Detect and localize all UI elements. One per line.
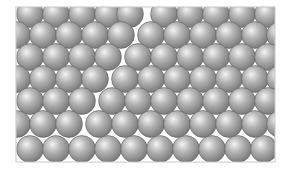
sphere-packing-diagram	[0, 0, 289, 171]
right-grain-sphere	[99, 88, 126, 115]
right-grain-sphere	[199, 136, 226, 163]
right-grain-sphere	[177, 88, 204, 115]
right-grain-sphere	[190, 111, 217, 138]
right-grain-sphere	[255, 88, 282, 115]
right-grain-sphere	[95, 136, 122, 163]
left-grain-sphere	[69, 136, 96, 163]
left-grain-sphere	[4, 111, 31, 138]
left-grain-sphere	[17, 88, 44, 115]
left-grain-sphere	[30, 111, 57, 138]
right-grain-sphere	[151, 88, 178, 115]
right-grain-sphere	[147, 136, 174, 163]
left-grain-sphere	[56, 111, 83, 138]
right-grain-sphere	[86, 111, 113, 138]
right-grain-sphere	[242, 111, 269, 138]
left-grain-sphere	[43, 136, 70, 163]
right-grain-sphere	[216, 111, 243, 138]
right-grain-sphere	[125, 88, 152, 115]
right-grain-sphere	[121, 136, 148, 163]
right-grain-sphere	[164, 111, 191, 138]
right-grain-sphere	[225, 136, 252, 163]
left-grain-sphere	[43, 88, 70, 115]
right-grain-sphere	[173, 136, 200, 163]
left-grain-sphere	[69, 88, 96, 115]
right-grain-sphere	[251, 136, 278, 163]
right-grain-sphere	[112, 111, 139, 138]
diagram-canvas	[0, 0, 289, 171]
left-grain-sphere	[17, 136, 44, 163]
right-grain-sphere	[229, 88, 256, 115]
right-grain-sphere	[138, 111, 165, 138]
right-grain-sphere	[203, 88, 230, 115]
